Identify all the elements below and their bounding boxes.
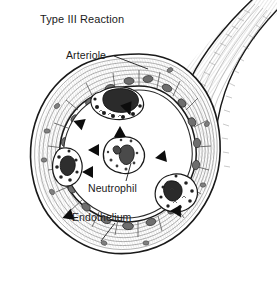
endothelium-label: Endothelium (72, 212, 131, 223)
neutrophil-center (103, 137, 144, 174)
neutrophil-label: Neutrophil (88, 183, 137, 194)
type-iii-reaction-figure (0, 0, 277, 286)
figure-title: Type III Reaction (40, 14, 124, 25)
neutrophil-right-wall (155, 174, 197, 212)
arteriole-label: Arteriole (66, 50, 106, 61)
neutrophil-left-wall (53, 148, 83, 186)
